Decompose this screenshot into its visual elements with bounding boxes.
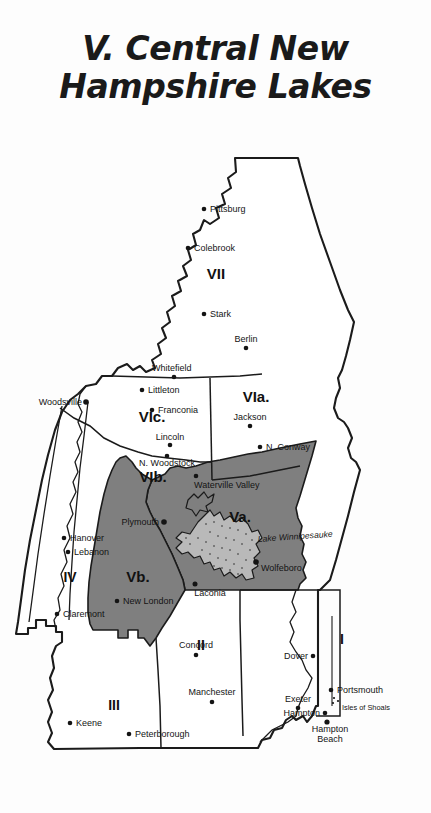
city-label-whitefield: Whitefield xyxy=(152,363,192,373)
city-label-hampton-beach-1: Hampton xyxy=(312,724,349,734)
region-label-i: I xyxy=(340,631,344,647)
city-dot-laconia xyxy=(193,582,198,587)
region-label-vii: VII xyxy=(207,265,225,282)
city-label-keene: Keene xyxy=(76,718,102,728)
city-dot-new-london xyxy=(115,599,120,604)
isles-of-shoals-icon xyxy=(332,697,339,704)
title-line-2: Hampshire Lakes xyxy=(0,68,431,106)
city-dot-keene xyxy=(68,721,73,726)
city-dot-n-conway xyxy=(258,445,263,450)
city-dot-hanover xyxy=(62,536,67,541)
region-label-va: Va. xyxy=(229,508,251,525)
city-label-n-woodstock: N. Woodstock xyxy=(139,458,195,468)
city-dot-colebrook xyxy=(186,246,191,251)
city-dot-plymouth xyxy=(161,519,167,525)
city-label-littleton: Littleton xyxy=(148,385,180,395)
new-hampshire-map: VII VIa. VIb. VIc. Va. Vb. IV III II I P… xyxy=(0,150,431,790)
city-dot-concord xyxy=(194,653,199,658)
city-label-woodsville: Woodsville xyxy=(39,397,82,407)
city-dot-franconia xyxy=(150,408,155,413)
region-label-iii: III xyxy=(108,697,120,713)
region-label-vib: VIb. xyxy=(139,468,167,485)
city-dot-pittsburg xyxy=(202,207,207,212)
city-label-plymouth: Plymouth xyxy=(121,517,159,527)
city-dot-wolfeboro xyxy=(253,559,259,565)
city-label-hampton: Hampton xyxy=(283,708,320,718)
city-label-waterville-valley: Waterville Valley xyxy=(194,480,260,490)
city-dot-lincoln xyxy=(168,443,173,448)
city-dot-manchester xyxy=(210,700,215,705)
city-dot-littleton xyxy=(140,388,145,393)
city-label-dover: Dover xyxy=(284,651,308,661)
city-label-hanover: Hanover xyxy=(70,533,104,543)
city-label-wolfeboro: Wolfeboro xyxy=(261,563,302,573)
city-label-manchester: Manchester xyxy=(188,687,235,697)
city-dot-hampton xyxy=(323,711,328,716)
city-label-peterborough: Peterborough xyxy=(135,729,190,739)
page-title: V. Central New Hampshire Lakes xyxy=(0,30,431,106)
city-label-hampton-beach-2: Beach xyxy=(317,734,343,744)
city-dot-woodsville xyxy=(83,399,89,405)
city-label-n-conway: N. Conway xyxy=(266,442,311,452)
region-label-vb: Vb. xyxy=(126,568,149,585)
city-label-isles-of-shoals: Isles of Shoals xyxy=(342,703,390,712)
city-dot-stark xyxy=(202,312,207,317)
city-dot-dover xyxy=(311,654,316,659)
city-label-lincoln: Lincoln xyxy=(156,432,185,442)
city-label-laconia: Laconia xyxy=(194,588,226,598)
city-dot-waterville-valley xyxy=(194,474,199,479)
city-label-new-london: New London xyxy=(123,596,174,606)
city-label-pittsburg: Pittsburg xyxy=(210,204,246,214)
region-label-via: VIa. xyxy=(243,388,270,405)
city-label-exeter: Exeter xyxy=(285,694,311,704)
city-dot-claremont xyxy=(55,612,60,617)
city-label-franconia: Franconia xyxy=(158,405,198,415)
city-dot-lebanon xyxy=(66,550,71,555)
city-dot-whitefield xyxy=(172,375,177,380)
city-dot-berlin xyxy=(244,346,249,351)
title-line-1: V. Central New xyxy=(0,30,431,68)
map-page: V. Central New Hampshire Lakes xyxy=(0,0,431,813)
city-label-berlin: Berlin xyxy=(234,334,257,344)
city-label-jackson: Jackson xyxy=(233,412,266,422)
city-label-portsmouth: Portsmouth xyxy=(337,685,383,695)
city-label-concord: Concord xyxy=(179,640,213,650)
city-label-stark: Stark xyxy=(210,309,232,319)
region-label-iv: IV xyxy=(63,569,77,585)
city-dot-portsmouth xyxy=(329,688,334,693)
city-label-claremont: Claremont xyxy=(63,609,105,619)
city-dot-peterborough xyxy=(127,732,132,737)
city-label-lebanon: Lebanon xyxy=(74,547,109,557)
city-label-colebrook: Colebrook xyxy=(194,243,236,253)
city-dot-jackson xyxy=(248,424,253,429)
